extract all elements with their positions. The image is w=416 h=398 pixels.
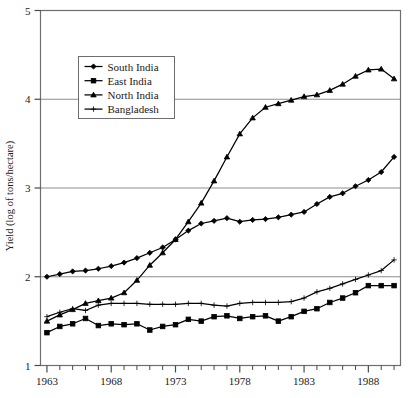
data-point-marker	[276, 319, 281, 324]
data-point-marker	[57, 324, 62, 329]
data-point-marker	[70, 269, 75, 274]
data-point-marker	[57, 271, 62, 276]
data-point-marker	[263, 216, 268, 221]
legend-label: South India	[108, 61, 159, 73]
data-point-marker	[70, 321, 75, 326]
x-tick-label: 1988	[357, 375, 380, 387]
y-tick-label: 3	[25, 182, 31, 194]
data-point-marker	[366, 283, 371, 288]
data-point-marker	[327, 300, 332, 305]
y-axis-tick-labels: 12345	[25, 5, 31, 372]
data-point-marker	[96, 323, 101, 328]
data-point-marker	[96, 266, 101, 271]
y-axis-ticks	[35, 11, 41, 366]
y-axis-title: Yield (log of tons/hectare)	[4, 140, 16, 251]
data-point-marker	[135, 321, 140, 326]
series-line	[47, 157, 394, 277]
gridlines-group	[41, 99, 401, 277]
data-point-marker	[237, 316, 242, 321]
data-point-marker	[173, 322, 178, 327]
data-point-marker	[211, 218, 216, 223]
data-point-marker	[198, 200, 203, 205]
data-point-marker	[83, 268, 88, 273]
chart-legend: South IndiaEast IndiaNorth IndiaBanglade…	[79, 57, 175, 119]
data-point-marker	[315, 306, 320, 311]
legend-label: North India	[108, 89, 159, 101]
legend-label: East India	[108, 75, 152, 87]
data-point-marker	[224, 216, 229, 221]
data-point-marker	[340, 296, 345, 301]
data-point-marker	[199, 221, 204, 226]
data-point-marker	[237, 219, 242, 224]
data-point-marker	[225, 314, 230, 319]
data-point-marker	[340, 191, 345, 196]
x-tick-label: 1963	[36, 375, 59, 387]
data-point-marker	[83, 316, 88, 321]
data-point-marker	[302, 309, 307, 314]
data-point-marker	[147, 328, 152, 333]
data-point-marker	[147, 250, 152, 255]
data-point-marker	[353, 290, 358, 295]
data-point-marker	[134, 256, 139, 261]
data-point-marker	[276, 215, 281, 220]
data-point-marker	[121, 260, 126, 265]
legend-label: Bangladesh	[108, 103, 160, 115]
x-axis-tick-labels: 196319681973197819831988	[36, 375, 380, 387]
x-tick-label: 1978	[229, 375, 252, 387]
data-point-marker	[327, 194, 332, 199]
data-point-marker	[289, 314, 294, 319]
data-point-marker	[250, 314, 255, 319]
series-south-india	[44, 154, 396, 279]
data-point-marker	[91, 78, 96, 83]
data-point-marker	[122, 322, 127, 327]
data-point-marker	[199, 319, 204, 324]
chart-container: 196319681973197819831988 12345 South Ind…	[0, 0, 416, 398]
data-point-marker	[45, 330, 50, 335]
yield-line-chart: 196319681973197819831988 12345 South Ind…	[0, 0, 416, 398]
x-tick-label: 1973	[165, 375, 188, 387]
data-point-marker	[224, 154, 229, 159]
y-tick-label: 2	[25, 271, 31, 283]
data-point-marker	[211, 178, 216, 183]
data-point-marker	[160, 324, 165, 329]
data-point-marker	[263, 314, 268, 319]
data-point-marker	[340, 81, 345, 86]
data-point-marker	[212, 314, 217, 319]
data-point-marker	[392, 283, 397, 288]
data-point-marker	[109, 264, 114, 269]
x-axis-ticks	[47, 366, 394, 373]
y-tick-label: 1	[25, 360, 31, 372]
x-tick-label: 1968	[100, 375, 123, 387]
data-point-marker	[250, 217, 255, 222]
data-point-marker	[186, 317, 191, 322]
data-point-marker	[379, 283, 384, 288]
x-tick-label: 1983	[293, 375, 316, 387]
data-point-marker	[109, 321, 114, 326]
y-tick-label: 5	[25, 5, 31, 17]
data-point-marker	[289, 212, 294, 217]
data-point-marker	[44, 274, 49, 279]
series-east-india	[45, 283, 397, 335]
series-bangladesh	[44, 257, 397, 319]
y-tick-label: 4	[25, 93, 31, 105]
